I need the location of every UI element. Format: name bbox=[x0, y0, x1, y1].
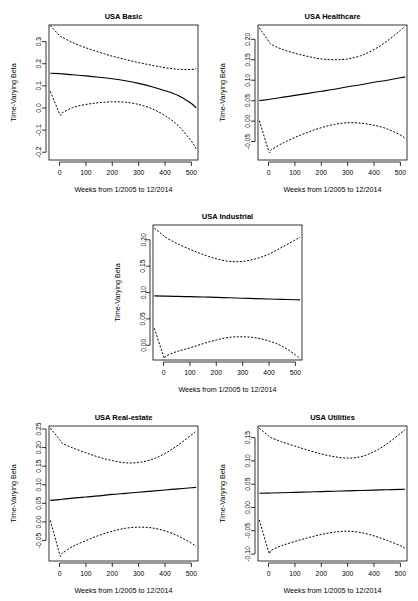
usa-industrial-lower-ci bbox=[154, 328, 300, 359]
usa-utilities-upper-ci bbox=[259, 428, 405, 458]
usa-utilities-fitted-beta bbox=[259, 489, 405, 493]
usa-basic-lower-ci bbox=[50, 91, 196, 149]
usa-real-estate-ytick-label: 0.00 bbox=[36, 515, 43, 528]
usa-utilities-xtick-label: 200 bbox=[316, 570, 328, 577]
usa-basic-xtick-label: 400 bbox=[159, 169, 171, 176]
usa-utilities-ytick-label: 0.05 bbox=[245, 477, 252, 490]
usa-healthcare-title: USA Healthcare bbox=[305, 12, 361, 21]
usa-utilities-ylabel: Time-Varying Beta bbox=[218, 464, 227, 523]
usa-healthcare-x-axis: 0100200300400500 bbox=[267, 162, 407, 176]
usa-basic-fitted-beta bbox=[50, 73, 196, 108]
usa-real-estate-lower-ci bbox=[50, 520, 196, 556]
usa-industrial-xtick-label: 200 bbox=[211, 369, 223, 376]
usa-healthcare-xtick-label: 400 bbox=[368, 169, 380, 176]
usa-utilities-ytick-label: 0.15 bbox=[245, 431, 252, 444]
usa-healthcare-xtick-label: 300 bbox=[342, 169, 354, 176]
usa-industrial-ytick-label: 0.20 bbox=[140, 233, 147, 246]
usa-basic-ytick-label: -0.1 bbox=[36, 124, 43, 136]
usa-industrial-x-axis: 0100200300400500 bbox=[162, 362, 302, 376]
usa-real-estate-title: USA Real-estate bbox=[95, 413, 153, 422]
usa-industrial-ytick-label: 0.05 bbox=[140, 312, 147, 325]
usa-industrial-ylabel: Time-Varying Beta bbox=[113, 263, 122, 322]
usa-real-estate-ytick-label: 0.05 bbox=[36, 497, 43, 510]
usa-industrial-ytick-label: 0.15 bbox=[140, 259, 147, 272]
usa-healthcare-ytick-label: 0.15 bbox=[245, 53, 252, 66]
usa-basic-xtick-label: 300 bbox=[133, 169, 145, 176]
usa-basic-svg: USA Basic0100200300400500Weeks from 1/20… bbox=[0, 0, 209, 200]
usa-utilities-ytick-label: 0.10 bbox=[245, 454, 252, 467]
usa-basic-upper-ci bbox=[50, 26, 196, 70]
usa-basic-x-axis: 0100200300400500 bbox=[58, 162, 198, 176]
usa-basic-ytick-label: -0.2 bbox=[36, 146, 43, 158]
usa-industrial-title: USA Industrial bbox=[202, 212, 253, 221]
usa-healthcare-xtick-label: 0 bbox=[267, 169, 271, 176]
usa-healthcare-svg: USA Healthcare0100200300400500Weeks from… bbox=[209, 0, 418, 200]
usa-real-estate-xtick-label: 0 bbox=[58, 570, 62, 577]
usa-industrial-xtick-label: 100 bbox=[184, 369, 196, 376]
panel-usa-healthcare: USA Healthcare0100200300400500Weeks from… bbox=[209, 0, 418, 200]
usa-utilities-xlabel: Weeks from 1/2005 to 12/2014 bbox=[283, 586, 381, 595]
usa-utilities-x-axis: 0100200300400500 bbox=[267, 563, 407, 577]
usa-healthcare-ytick-label: 0.20 bbox=[245, 32, 252, 45]
usa-basic-ytick-label: 0.1 bbox=[36, 81, 43, 91]
usa-utilities-xtick-label: 400 bbox=[368, 570, 380, 577]
usa-real-estate-ylabel: Time-Varying Beta bbox=[9, 464, 18, 523]
usa-healthcare-fitted-beta bbox=[259, 77, 405, 101]
usa-real-estate-fitted-beta bbox=[50, 487, 196, 500]
usa-utilities-plot-frame bbox=[258, 426, 407, 561]
usa-utilities-ytick-label: -0.05 bbox=[245, 523, 252, 539]
usa-real-estate-xlabel: Weeks from 1/2005 to 12/2014 bbox=[74, 586, 172, 595]
usa-utilities-ytick-label: -0.10 bbox=[245, 546, 252, 562]
usa-healthcare-xlabel: Weeks from 1/2005 to 12/2014 bbox=[283, 185, 381, 194]
usa-basic-xtick-label: 200 bbox=[107, 169, 119, 176]
usa-industrial-y-axis: 0.000.050.100.150.20 bbox=[140, 233, 151, 352]
usa-healthcare-ytick-label: -0.05 bbox=[245, 134, 252, 150]
usa-real-estate-ytick-label: 0.10 bbox=[36, 478, 43, 491]
usa-utilities-xtick-label: 500 bbox=[395, 570, 407, 577]
usa-real-estate-xtick-label: 500 bbox=[186, 570, 198, 577]
usa-real-estate-xtick-label: 100 bbox=[80, 570, 92, 577]
usa-utilities-lower-ci bbox=[259, 520, 405, 554]
usa-basic-xtick-label: 100 bbox=[80, 169, 92, 176]
usa-basic-ylabel: Time-Varying Beta bbox=[9, 63, 18, 122]
usa-real-estate-xtick-label: 200 bbox=[107, 570, 119, 577]
usa-industrial-xtick-label: 300 bbox=[237, 369, 249, 376]
usa-industrial-ytick-label: 0.00 bbox=[140, 338, 147, 351]
usa-basic-xlabel: Weeks from 1/2005 to 12/2014 bbox=[74, 185, 172, 194]
usa-healthcare-plot-frame bbox=[258, 25, 407, 160]
usa-industrial-svg: USA Industrial0100200300400500Weeks from… bbox=[104, 200, 313, 400]
usa-utilities-xtick-label: 300 bbox=[342, 570, 354, 577]
panel-usa-real-estate: USA Real-estate0100200300400500Weeks fro… bbox=[0, 401, 209, 601]
usa-healthcare-ytick-label: 0.00 bbox=[245, 114, 252, 127]
usa-industrial-ytick-label: 0.10 bbox=[140, 286, 147, 299]
usa-real-estate-xtick-label: 300 bbox=[133, 570, 145, 577]
usa-real-estate-ytick-label: 0.15 bbox=[36, 459, 43, 472]
usa-industrial-plot-frame bbox=[153, 225, 302, 360]
usa-real-estate-ytick-label: 0.20 bbox=[36, 441, 43, 454]
panel-usa-basic: USA Basic0100200300400500Weeks from 1/20… bbox=[0, 0, 209, 200]
usa-healthcare-ylabel: Time-Varying Beta bbox=[218, 63, 227, 122]
usa-basic-ytick-label: 0.2 bbox=[36, 59, 43, 69]
usa-industrial-fitted-beta bbox=[154, 296, 300, 300]
usa-utilities-svg: USA Utilities0100200300400500Weeks from … bbox=[209, 401, 418, 601]
usa-industrial-xlabel: Weeks from 1/2005 to 12/2014 bbox=[178, 385, 276, 394]
usa-utilities-xtick-label: 100 bbox=[289, 570, 301, 577]
usa-real-estate-x-axis: 0100200300400500 bbox=[58, 563, 198, 577]
usa-industrial-xtick-label: 500 bbox=[290, 369, 302, 376]
usa-basic-xtick-label: 500 bbox=[186, 169, 198, 176]
usa-real-estate-ytick-label: 0.25 bbox=[36, 422, 43, 435]
usa-utilities-title: USA Utilities bbox=[310, 413, 355, 422]
usa-healthcare-xtick-label: 500 bbox=[395, 169, 407, 176]
usa-basic-ytick-label: 0.0 bbox=[36, 103, 43, 113]
usa-basic-plot-frame bbox=[49, 25, 198, 160]
usa-real-estate-y-axis: -0.050.000.050.100.150.200.25 bbox=[36, 422, 47, 548]
usa-healthcare-ytick-label: 0.05 bbox=[245, 94, 252, 107]
usa-utilities-xtick-label: 0 bbox=[267, 570, 271, 577]
panel-usa-utilities: USA Utilities0100200300400500Weeks from … bbox=[209, 401, 418, 601]
usa-healthcare-upper-ci bbox=[259, 26, 405, 60]
usa-real-estate-upper-ci bbox=[50, 428, 196, 463]
usa-utilities-y-axis: -0.10-0.050.000.050.100.15 bbox=[245, 431, 256, 562]
usa-real-estate-ytick-label: -0.05 bbox=[36, 533, 43, 549]
usa-real-estate-xtick-label: 400 bbox=[159, 570, 171, 577]
usa-healthcare-lower-ci bbox=[259, 121, 405, 153]
